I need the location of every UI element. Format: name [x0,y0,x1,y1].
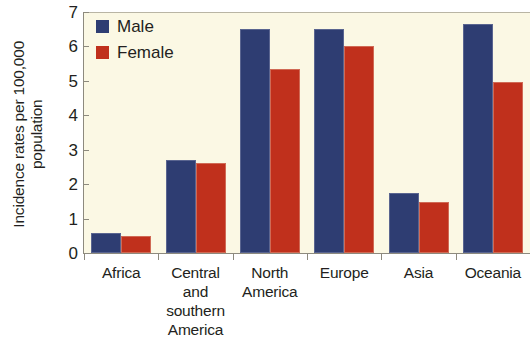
legend-entry-female: Female [96,44,174,61]
x-category-label-line: Oceania [456,264,530,283]
bar-female [121,236,151,253]
y-tick-mark [83,184,89,185]
bar-male [91,233,121,253]
y-axis-title: Incidence rates per 100,000 population [0,0,56,268]
x-category-label-line: America [233,283,307,302]
x-category-label-line: Asia [381,264,455,283]
y-tick-label: 1 [56,210,78,227]
x-category-label: Europe [307,264,381,283]
y-axis-title-line1: Incidence rates per 100,000 [10,41,28,228]
y-tick-label: 4 [56,107,78,124]
x-category-label: CentralandsouthernAmerica [158,264,232,340]
y-tick-mark [83,150,89,151]
x-category-label-line: southern [158,302,232,321]
bar-male [240,29,270,253]
y-tick-mark [83,46,89,47]
legend: Male Female [96,18,174,70]
x-category-label-line: and [158,283,232,302]
x-tick-mark [84,253,85,260]
x-category-label: Africa [84,264,158,283]
x-category-label-line: America [158,321,232,340]
y-tick-label: 6 [56,38,78,55]
y-axis-ticks: 01234567 [56,0,78,343]
x-tick-mark [158,253,159,260]
bar-female [419,202,449,253]
bar-female [196,163,226,253]
x-tick-mark [307,253,308,260]
y-axis-title-line2: population [28,99,46,169]
x-category-label-line: Central [158,264,232,283]
y-tick-mark [83,12,89,13]
bar-female [344,46,374,253]
y-tick-label: 0 [56,245,78,262]
bar-female [270,69,300,253]
y-tick-mark [83,219,89,220]
legend-swatch-male-icon [96,20,109,33]
y-tick-label: 3 [56,141,78,158]
y-tick-label: 2 [56,176,78,193]
bar-male [463,24,493,253]
x-category-label-line: North [233,264,307,283]
legend-label-male: Male [117,18,154,35]
bar-male [314,29,344,253]
bar-male [166,160,196,253]
x-category-label: Asia [381,264,455,283]
y-tick-mark [83,115,89,116]
x-tick-mark [233,253,234,260]
legend-label-female: Female [117,44,174,61]
x-category-label: Oceania [456,264,530,283]
legend-swatch-female-icon [96,46,109,59]
y-tick-label: 5 [56,72,78,89]
x-tick-mark [381,253,382,260]
bar-chart: Incidence rates per 100,000 population 0… [0,0,530,343]
y-tick-mark [83,81,89,82]
x-category-label-line: Europe [307,264,381,283]
bar-male [389,193,419,253]
y-tick-label: 7 [56,4,78,21]
x-tick-mark [456,253,457,260]
x-category-label-line: Africa [84,264,158,283]
bar-female [493,82,523,253]
legend-entry-male: Male [96,18,174,35]
x-category-label: NorthAmerica [233,264,307,302]
